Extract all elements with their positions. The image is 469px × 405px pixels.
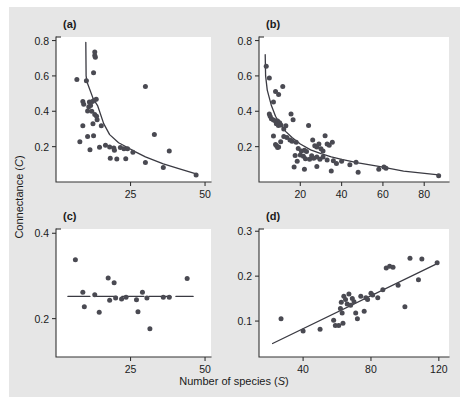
- data-point: [358, 294, 363, 299]
- data-point: [123, 156, 128, 161]
- data-point: [314, 164, 319, 169]
- panel-label: (a): [63, 18, 77, 30]
- data-point: [276, 144, 281, 149]
- data-point: [278, 139, 283, 144]
- y-tick-label: 0.8: [237, 35, 252, 47]
- plot-area-background: [56, 229, 211, 357]
- data-point: [152, 132, 157, 137]
- data-point: [271, 100, 276, 105]
- data-point: [106, 276, 111, 281]
- x-axis-title-text: Number of species (: [179, 375, 278, 387]
- data-point: [125, 146, 130, 151]
- x-tick-label: 25: [125, 363, 137, 375]
- data-point: [185, 276, 190, 281]
- y-tick-label: 0.2: [237, 270, 252, 282]
- data-point: [396, 283, 401, 288]
- data-point: [143, 84, 148, 89]
- data-point: [352, 299, 357, 304]
- data-point: [339, 159, 344, 164]
- data-point: [354, 160, 359, 165]
- data-point: [321, 154, 326, 159]
- data-point: [279, 316, 284, 321]
- data-point: [267, 76, 272, 81]
- data-point: [124, 295, 129, 300]
- data-point: [301, 328, 306, 333]
- y-tick-label: 0.2: [34, 313, 49, 325]
- data-point: [264, 64, 269, 69]
- data-point: [339, 300, 344, 305]
- y-tick-label: 0.4: [34, 227, 49, 239]
- y-tick-label: 0.6: [237, 70, 252, 82]
- data-point: [402, 304, 407, 309]
- data-point: [329, 169, 334, 174]
- data-point: [306, 123, 311, 128]
- data-point: [107, 144, 112, 149]
- data-point: [353, 310, 358, 315]
- data-point: [140, 290, 145, 295]
- data-point: [77, 139, 82, 144]
- data-point: [347, 162, 352, 167]
- x-tick-label: 120: [430, 363, 448, 375]
- data-point: [93, 55, 98, 60]
- data-point: [90, 121, 95, 126]
- data-point: [336, 323, 341, 328]
- data-point: [130, 150, 135, 155]
- data-point: [316, 141, 321, 146]
- data-point: [107, 298, 112, 303]
- y-tick-label: 0.6: [34, 70, 49, 82]
- data-point: [330, 140, 335, 145]
- data-point: [331, 318, 336, 323]
- data-point: [338, 306, 343, 311]
- data-point: [370, 293, 375, 298]
- data-point: [113, 296, 118, 301]
- data-point: [95, 117, 100, 122]
- y-tick-label: 0.2: [34, 141, 49, 153]
- y-tick-label: 0.1: [237, 315, 252, 327]
- data-point: [108, 156, 113, 161]
- data-point: [81, 102, 86, 107]
- x-axis-title-close: ): [285, 375, 289, 387]
- data-point: [276, 92, 281, 97]
- data-point: [391, 265, 396, 270]
- data-point: [435, 260, 440, 265]
- data-point: [294, 140, 299, 145]
- y-tick-label: 0.8: [34, 35, 49, 47]
- x-tick-label: 60: [377, 188, 389, 200]
- data-point: [91, 70, 96, 75]
- data-point: [291, 117, 296, 122]
- plot-area-background: [259, 37, 449, 182]
- data-point: [346, 292, 351, 297]
- data-point: [356, 170, 361, 175]
- data-point: [318, 327, 323, 332]
- data-point: [147, 326, 152, 331]
- y-tick-label: 0.3: [237, 225, 252, 237]
- data-point: [134, 297, 139, 302]
- panel-a: (a)0.20.40.60.82550: [34, 18, 211, 200]
- panel-label: (c): [63, 210, 77, 222]
- data-point: [161, 295, 166, 300]
- data-point: [161, 165, 166, 170]
- plot-area-background: [259, 229, 449, 357]
- data-point: [323, 133, 328, 138]
- data-point: [85, 134, 90, 139]
- panel-label: (b): [266, 18, 280, 30]
- y-axis-title-symbol: C: [13, 159, 25, 167]
- data-point: [292, 164, 297, 169]
- data-point: [343, 297, 348, 302]
- data-point: [362, 309, 367, 314]
- data-point: [334, 161, 339, 166]
- data-point: [194, 172, 199, 177]
- data-point: [340, 310, 345, 315]
- plot-area-background: [56, 37, 211, 182]
- y-tick-label: 0.4: [237, 105, 252, 117]
- x-tick-label: 40: [336, 188, 348, 200]
- data-point: [143, 160, 148, 165]
- data-point: [80, 123, 85, 128]
- data-point: [283, 123, 288, 128]
- data-point: [135, 309, 140, 314]
- data-point: [91, 133, 96, 138]
- panel-c: (c)0.20.42550: [34, 210, 211, 375]
- data-point: [302, 167, 307, 172]
- four-panel-scatter-figure: (a)0.20.40.60.82550(b)0.20.40.60.8204060…: [9, 7, 460, 397]
- data-point: [84, 78, 89, 83]
